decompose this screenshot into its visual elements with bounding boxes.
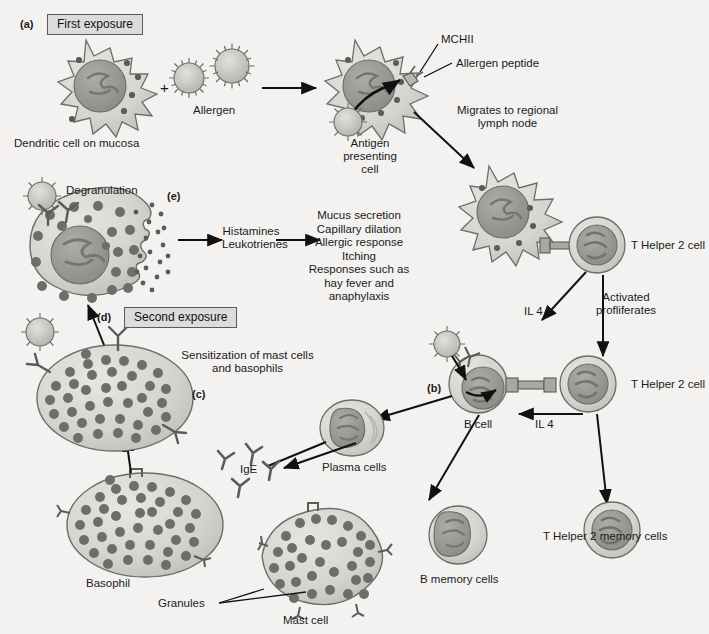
plasma-cells-label: Plasma cells <box>322 461 387 474</box>
migrates-label: Migrates to regional lymph node <box>440 104 575 130</box>
mediators-label: Histamines Leukotrienes <box>222 225 280 251</box>
panel-marker-a: (a) <box>20 18 33 31</box>
ige-antibody <box>232 479 249 497</box>
ige-label: IgE <box>240 463 257 476</box>
granules-label: Granules <box>158 597 205 610</box>
ige-antibody <box>246 444 262 464</box>
leader-mhcii <box>420 44 438 72</box>
mhcii-label: MCHII <box>441 33 474 46</box>
mast-cell <box>258 502 392 619</box>
t-helper-2-cell-mid <box>560 356 616 412</box>
arrow-plasma-cells <box>375 396 452 419</box>
basophil-label: Basophil <box>86 577 130 590</box>
allergen-peptide-label: Allergen peptide <box>456 57 539 70</box>
basophil <box>57 468 223 577</box>
dendritic-cell-label: Dendritic cell on mucosa <box>14 137 139 150</box>
panel-marker-b: (b) <box>427 382 441 395</box>
allergen-particle <box>169 44 255 99</box>
b-memory-cells-label: B memory cells <box>420 573 499 586</box>
il4-upper-label: IL 4 <box>524 305 543 318</box>
sensitized-mast-cell <box>27 327 193 451</box>
sensitization-label: Sensitization of mast cells and basophil… <box>165 349 330 375</box>
second-exposure-allergen <box>21 313 59 351</box>
lymph-node-apc <box>459 166 572 266</box>
ige-antibody <box>218 451 234 469</box>
mast-cell-label: Mast cell <box>283 614 328 627</box>
panel-marker-d: (d) <box>97 311 111 324</box>
plus-sign: + <box>160 81 169 94</box>
antigen-presenting-cell <box>325 40 428 141</box>
b-cell <box>429 326 556 413</box>
arrow-th2-memory <box>597 414 607 504</box>
b-cell-label: B cell <box>464 418 492 431</box>
effects-label: Mucus secretion Capillary dilation Aller… <box>300 209 418 304</box>
plasma-cell <box>320 400 384 456</box>
t-helper-2-cell-top-label: T Helper 2 cell <box>631 239 705 252</box>
t-helper-2-cell-mid-label: T Helper 2 cell <box>631 378 705 391</box>
degranulation-label: Degranulation <box>66 184 138 197</box>
allergen-label: Allergen <box>193 104 235 117</box>
panel-marker-c: (c) <box>192 388 205 401</box>
t-helper-2-cell-top <box>569 217 625 273</box>
il4-lower-label: IL 4 <box>535 418 554 431</box>
second-exposure-box: Second exposure <box>124 307 237 328</box>
first-exposure-box: First exposure <box>47 14 143 35</box>
leader-granules-1 <box>219 589 264 603</box>
b-memory-cell <box>429 506 487 564</box>
dendritic-cell-mucosa <box>58 40 157 137</box>
antigen-presenting-cell-label: Antigen presenting cell <box>332 137 408 176</box>
panel-marker-e: (e) <box>167 190 180 203</box>
t-helper-2-memory-cells-label: T Helper 2 memory cells <box>543 530 667 543</box>
activated-proliferates-label: Activated profliferates <box>576 291 676 317</box>
allergy-pathway-diagram: (a) First exposure Dendritic cell on muc… <box>0 0 709 634</box>
leader-allergen-peptide <box>424 63 452 77</box>
